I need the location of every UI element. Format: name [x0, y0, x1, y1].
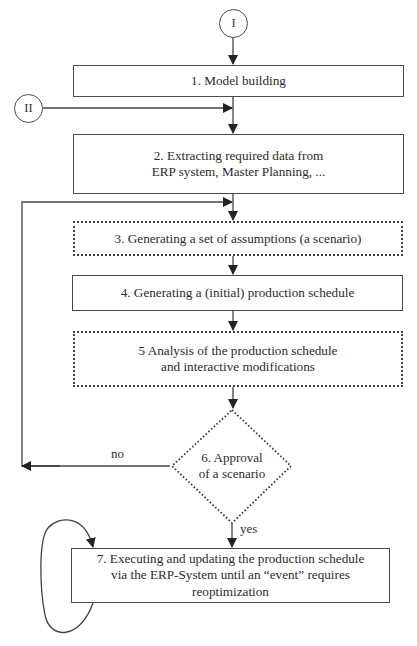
step-7-line1: 7. Executing and updating the production…	[97, 551, 365, 568]
connector-II: II	[14, 94, 43, 123]
step-6-approval: 6. Approval of a scenario	[182, 450, 282, 482]
step-1-model-building: 1. Model building	[73, 65, 404, 97]
step-4-generating-schedule: 4. Generating a (initial) production sch…	[72, 275, 403, 311]
step-6-line2: of a scenario	[182, 466, 282, 482]
step-1-label: 1. Model building	[191, 73, 286, 89]
step-7-line2: via the ERP-System until an “event” requ…	[111, 567, 350, 584]
connector-I: I	[219, 9, 248, 38]
step-7-line3: reoptimization	[192, 584, 269, 601]
step-2-line2: ERP system, Master Planning, ...	[152, 164, 326, 180]
step-2-line1: 2. Extracting required data from	[154, 148, 324, 164]
step-5-line2: and interactive modifications	[161, 359, 315, 375]
step-4-label: 4. Generating a (initial) production sch…	[121, 285, 355, 301]
step-3-label: 3. Generating a set of assumptions (a sc…	[115, 231, 362, 247]
connector-I-label: I	[231, 16, 235, 31]
step-5-line1: 5 Analysis of the production schedule	[139, 343, 338, 359]
connector-II-label: II	[24, 101, 32, 116]
step-2-extracting-data: 2. Extracting required data from ERP sys…	[73, 134, 404, 194]
edge-label-no: no	[111, 446, 124, 462]
edge-label-yes: yes	[240, 521, 257, 537]
step-5-analysis: 5 Analysis of the production schedule an…	[73, 331, 403, 387]
step-6-line1: 6. Approval	[182, 450, 282, 466]
step-7-executing-updating: 7. Executing and updating the production…	[71, 548, 390, 603]
step-3-generating-assumptions: 3. Generating a set of assumptions (a sc…	[73, 221, 403, 256]
